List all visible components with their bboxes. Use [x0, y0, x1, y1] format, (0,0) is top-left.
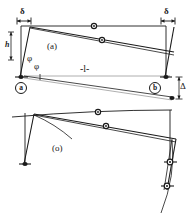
span-length-label: -l- — [80, 64, 89, 74]
panel-sigma-label: (o) — [52, 144, 63, 153]
sigma-deformed-beam-node-dot — [105, 125, 107, 127]
sway-right-label: δ — [164, 7, 169, 16]
delta-right-arrow-end — [172, 19, 176, 22]
sigma-right-node2-dot — [166, 185, 168, 187]
sway-left-label: δ — [20, 7, 25, 16]
rotation-upper-label: φ — [27, 54, 32, 63]
figure-vector-canvas — [0, 0, 191, 219]
vertical-drop-arrow-top — [177, 77, 180, 80]
support-a-label: a — [19, 84, 23, 92]
support-a-node-dot — [18, 75, 23, 79]
sigma-deflected-shape-curve — [161, 140, 173, 213]
deformed-beam-node-dot — [101, 39, 103, 41]
delta-left-arrow-start — [17, 19, 21, 22]
rotation-lower-label: φ — [34, 62, 39, 71]
support-b-node-dot — [163, 75, 168, 79]
top-beam-node-dot — [93, 25, 95, 27]
panel-sigma-geometry — [12, 109, 177, 213]
panel-a-label: (a) — [47, 42, 57, 51]
sigma-top-beam-node-dot — [97, 111, 99, 113]
height-arrow-bottom — [9, 57, 12, 60]
deformed-right-base-node — [169, 96, 174, 100]
support-b-label: b — [153, 84, 157, 92]
deformed-left-column — [20, 27, 30, 77]
sigma-right-node1-dot — [169, 161, 171, 163]
sigma-deformed-left-column — [24, 114, 34, 164]
sigma-support-left-node-dot — [22, 162, 27, 166]
structural-diagram-figure: δ δ h φ φ -l- Δ (a) (o) a b — [0, 0, 191, 219]
support-b-badge: b — [149, 82, 161, 94]
vertical-drop-label: Δ — [180, 82, 186, 91]
height-label: h — [5, 41, 9, 49]
delta-left-arrow-end — [28, 19, 32, 22]
height-arrow-top — [9, 32, 12, 35]
vertical-drop-arrow-bottom — [177, 96, 180, 99]
support-a-badge: a — [15, 82, 27, 94]
delta-right-arrow-start — [161, 19, 165, 22]
